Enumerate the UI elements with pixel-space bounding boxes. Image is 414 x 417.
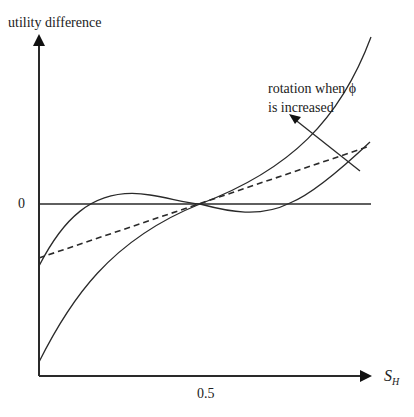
x-axis-label-main: S	[384, 367, 392, 384]
rotation-annotation: rotation when ϕ is increased	[268, 79, 356, 117]
annotation-line-1: rotation when ϕ	[268, 79, 356, 98]
y-axis-arrow-icon	[33, 34, 45, 46]
utility-difference-diagram: utility difference 0 0.5 SH rotation whe…	[0, 0, 414, 417]
x-tick-half: 0.5	[197, 387, 215, 401]
linear-dashed-line	[39, 146, 370, 258]
x-axis-label-sub: H	[392, 376, 399, 387]
annotation-line-2: is increased	[268, 98, 356, 117]
rotation-arrow	[293, 118, 360, 171]
y-axis-label: utility difference	[8, 16, 101, 30]
diagram-canvas	[0, 0, 414, 417]
y-tick-zero: 0	[18, 197, 25, 211]
x-axis-arrow-icon	[360, 370, 372, 382]
x-axis-label: SH	[384, 368, 399, 387]
